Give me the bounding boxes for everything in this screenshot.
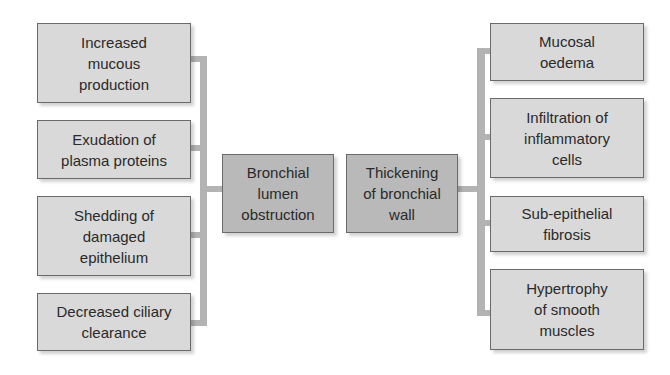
box-line: production bbox=[79, 74, 149, 95]
left-connector-stub-3 bbox=[190, 232, 200, 238]
box-line: damaged bbox=[74, 226, 154, 247]
cause-box-sub-epithelial-fibrosis: Sub-epithelial fibrosis bbox=[490, 196, 644, 252]
cause-box-shedding-of-damaged-epithelium: Shedding of damaged epithelium bbox=[37, 196, 191, 276]
left-connector-stub-1 bbox=[190, 56, 207, 62]
box-line: Decreased ciliary bbox=[56, 301, 171, 322]
box-line: Sub-epithelial bbox=[522, 203, 613, 224]
box-line: Infiltration of bbox=[524, 107, 610, 128]
left-connector-center-stub bbox=[207, 186, 223, 192]
center-box-bronchial-lumen-obstruction: Bronchial lumen obstruction bbox=[222, 154, 334, 233]
box-line: of bronchial bbox=[363, 183, 441, 204]
box-line: Shedding of bbox=[74, 205, 154, 226]
right-connector-center-stub bbox=[456, 186, 478, 192]
box-line: lumen bbox=[241, 183, 314, 204]
box-line: fibrosis bbox=[522, 224, 613, 245]
left-connector-stub-2 bbox=[190, 145, 200, 151]
box-line: clearance bbox=[56, 322, 171, 343]
box-line: inflammatory bbox=[524, 128, 610, 149]
box-line: epithelium bbox=[74, 247, 154, 268]
cause-box-increased-mucous-production: Increased mucous production bbox=[37, 23, 191, 103]
left-connector-vertical bbox=[200, 56, 207, 326]
box-line: Bronchial bbox=[241, 162, 314, 183]
cause-box-decreased-ciliary-clearance: Decreased ciliary clearance bbox=[37, 293, 191, 351]
box-line: Mucosal bbox=[539, 31, 595, 52]
cause-box-exudation-of-plasma-proteins: Exudation of plasma proteins bbox=[37, 120, 191, 179]
box-line: Hypertrophy bbox=[526, 278, 608, 299]
right-connector-stub-4 bbox=[477, 310, 491, 316]
box-line: oedema bbox=[539, 52, 595, 73]
box-line: mucous bbox=[79, 53, 149, 74]
cause-box-hypertrophy-of-smooth-muscles: Hypertrophy of smooth muscles bbox=[490, 269, 644, 350]
box-line: muscles bbox=[526, 320, 608, 341]
right-connector-vertical bbox=[477, 48, 485, 316]
box-line: of smooth bbox=[526, 299, 608, 320]
cause-box-mucosal-oedema: Mucosal oedema bbox=[490, 23, 644, 81]
box-line: Increased bbox=[79, 32, 149, 53]
box-line: obstruction bbox=[241, 204, 314, 225]
center-box-thickening-of-bronchial-wall: Thickening of bronchial wall bbox=[346, 154, 458, 233]
box-line: cells bbox=[524, 149, 610, 170]
box-line: wall bbox=[363, 204, 441, 225]
box-line: plasma proteins bbox=[61, 150, 167, 171]
left-connector-stub-4 bbox=[190, 320, 207, 326]
right-connector-stub-1 bbox=[477, 48, 491, 54]
box-line: Thickening bbox=[363, 162, 441, 183]
cause-box-infiltration-of-inflammatory-cells: Infiltration of inflammatory cells bbox=[490, 98, 644, 178]
box-line: Exudation of bbox=[61, 129, 167, 150]
